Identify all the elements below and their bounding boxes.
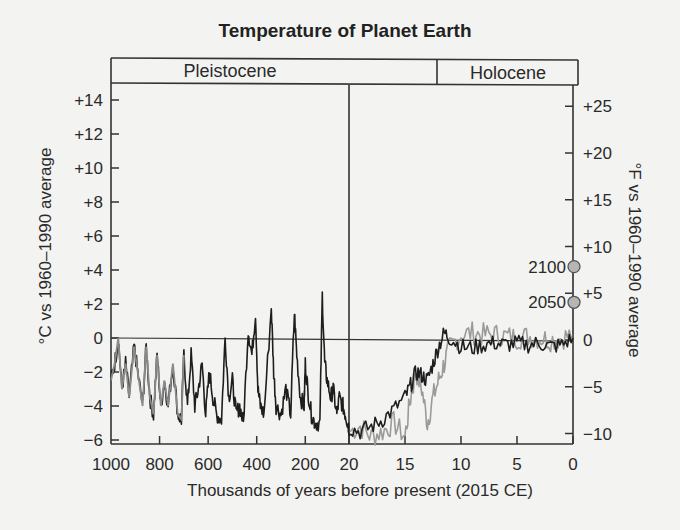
- y-axis-right-title: °F vs 1960–1990 average: [625, 163, 644, 358]
- y-right-tick-label: +25: [583, 97, 612, 116]
- x-tick-label: 0: [568, 455, 577, 474]
- epoch-label-holocene: Holocene: [470, 63, 546, 83]
- y-left-tick-label: −2: [84, 363, 103, 382]
- y-left-tick-label: +10: [74, 159, 103, 178]
- x-tick-label: 600: [194, 455, 222, 474]
- projection-label: 2050: [528, 293, 566, 312]
- projection-dot-2100: [568, 261, 580, 273]
- y-left-tick-label: +4: [84, 261, 103, 280]
- y-right-tick-label: 0: [583, 331, 592, 350]
- y-axis-left-title: °C vs 1960–1990 average: [36, 148, 55, 345]
- x-axis: 100080060040020020151050: [92, 436, 578, 474]
- x-tick-label: 1000: [92, 455, 130, 474]
- y-left-tick-label: −6: [84, 431, 103, 450]
- y-right-tick-label: −5: [583, 378, 602, 397]
- y-left-tick-label: +2: [84, 295, 103, 314]
- y-right-tick-label: −10: [583, 425, 612, 444]
- y-right-tick-label: +20: [583, 144, 612, 163]
- y-left-tick-label: +6: [84, 227, 103, 246]
- x-axis-title: Thousands of years before present (2015 …: [187, 481, 533, 500]
- y-right-tick-label: +15: [583, 191, 612, 210]
- y-left-tick-label: +8: [84, 193, 103, 212]
- x-tick-label: 400: [243, 455, 271, 474]
- y-left-tick-label: +14: [74, 91, 103, 110]
- epoch-label-pleistocene: Pleistocene: [183, 61, 276, 81]
- x-tick-label: 5: [512, 455, 521, 474]
- x-tick-label: 15: [396, 455, 415, 474]
- chart-canvas: Pleistocene Holocene +14+12+10+8+6+4+20−…: [0, 0, 680, 530]
- projection-label: 2100: [528, 258, 566, 277]
- x-tick-label: 800: [145, 455, 173, 474]
- projection-dot-2050: [568, 296, 580, 308]
- plot-frame: [111, 58, 578, 444]
- y-left-tick-label: −4: [84, 397, 103, 416]
- y-left-tick-label: +12: [74, 125, 103, 144]
- y-right-tick-label: +10: [583, 238, 612, 257]
- x-tick-label: 20: [340, 455, 359, 474]
- y-axis-left: +14+12+10+8+6+4+20−2−4−6: [74, 91, 119, 450]
- x-tick-label: 200: [291, 455, 319, 474]
- x-tick-label: 10: [452, 455, 471, 474]
- y-right-tick-label: +5: [583, 284, 602, 303]
- series-layer: [111, 292, 573, 445]
- y-left-tick-label: 0: [94, 329, 103, 348]
